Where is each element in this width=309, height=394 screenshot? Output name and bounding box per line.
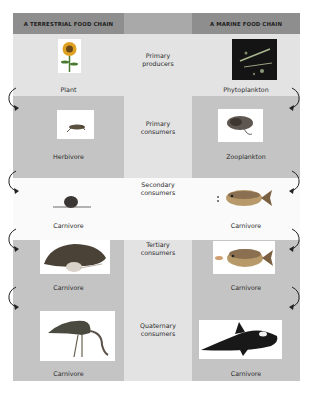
marine-organism-label: Zooplankton bbox=[192, 153, 300, 160]
trophic-level-label: Secondary consumers bbox=[124, 181, 192, 197]
curved-arrow-icon bbox=[288, 285, 302, 311]
mouse-image bbox=[51, 190, 93, 212]
terrestrial-organism-label: Carnivore bbox=[13, 370, 124, 377]
trophic-level-label: Quaternary consumers bbox=[124, 322, 192, 338]
row-primary-marine: Zooplankton bbox=[192, 96, 300, 178]
row-quaternary-terrestrial: Carnivore bbox=[13, 298, 124, 381]
curved-arrow-icon bbox=[6, 169, 20, 195]
trophic-level-label: Primary producers bbox=[124, 52, 192, 68]
row-quaternary-marine: Carnivore bbox=[192, 298, 300, 381]
zooplankton-image bbox=[218, 109, 263, 142]
curved-arrow-icon bbox=[288, 227, 302, 253]
marine-organism-label: Carnivore bbox=[192, 284, 300, 291]
curved-arrow-icon bbox=[288, 169, 302, 195]
row-producers-level: Primary producers bbox=[124, 34, 192, 96]
food-chain-diagram: A TERRESTRIAL FOOD CHAIN A MARINE FOOD C… bbox=[13, 13, 300, 381]
trophic-level-label: Tertiary consumers bbox=[124, 241, 192, 257]
orca-image bbox=[199, 320, 282, 359]
header-spacer bbox=[124, 13, 192, 34]
marine-organism-label: Carnivore bbox=[192, 222, 300, 229]
row-quaternary-level: Quaternary consumers bbox=[124, 298, 192, 381]
small-fish-image bbox=[214, 184, 280, 212]
trophic-level-label: Primary consumers bbox=[124, 120, 192, 136]
fish-image bbox=[213, 241, 275, 274]
curved-arrow-icon bbox=[6, 86, 20, 112]
terrestrial-organism-label: Plant bbox=[13, 86, 124, 93]
row-secondary-marine: Carnivore bbox=[192, 178, 300, 240]
curved-arrow-icon bbox=[6, 227, 20, 253]
row-secondary-terrestrial: Carnivore bbox=[13, 178, 124, 240]
row-producers-marine: Phytoplankton bbox=[192, 34, 300, 96]
curved-arrow-icon bbox=[288, 86, 302, 112]
row-tertiary-level: Tertiary consumers bbox=[124, 240, 192, 298]
terrestrial-organism-label: Herbivore bbox=[13, 153, 124, 160]
grasshopper-image bbox=[57, 110, 94, 139]
marine-header: A MARINE FOOD CHAIN bbox=[192, 13, 300, 34]
hawk-image bbox=[40, 311, 115, 361]
terrestrial-organism-label: Carnivore bbox=[13, 284, 124, 291]
phytoplankton-image bbox=[232, 39, 277, 80]
snake-image bbox=[40, 240, 110, 274]
row-secondary-level: Secondary consumers bbox=[124, 178, 192, 240]
marine-organism-label: Phytoplankton bbox=[192, 86, 300, 93]
marine-organism-label: Carnivore bbox=[192, 370, 300, 377]
row-primary-terrestrial: Herbivore bbox=[13, 96, 124, 178]
row-primary-level: Primary consumers bbox=[124, 96, 192, 178]
row-producers-terrestrial: Plant bbox=[13, 34, 124, 96]
row-tertiary-terrestrial: Carnivore bbox=[13, 240, 124, 298]
terrestrial-organism-label: Carnivore bbox=[13, 222, 124, 229]
curved-arrow-icon bbox=[6, 285, 20, 311]
row-tertiary-marine: Carnivore bbox=[192, 240, 300, 298]
sunflower-image bbox=[58, 39, 81, 73]
terrestrial-header: A TERRESTRIAL FOOD CHAIN bbox=[13, 13, 124, 34]
